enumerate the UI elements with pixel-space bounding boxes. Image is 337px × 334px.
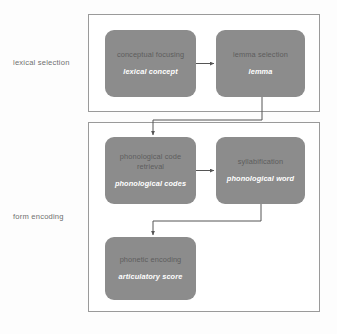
process-box-lemma-selection[interactable]: lemma selection lemma	[216, 30, 305, 97]
process-box-syllabification[interactable]: syllabification phonological word	[216, 137, 305, 204]
process-box-output: phonological codes	[112, 179, 189, 189]
process-box-title: syllabification	[234, 157, 287, 167]
process-box-title: phonological code retrieval	[105, 152, 196, 172]
speech-production-diagram: lexical selection form encoding conceptu…	[0, 0, 337, 334]
process-box-output: lexical concept	[120, 67, 181, 77]
process-box-phonological-code-retrieval[interactable]: phonological code retrieval phonological…	[105, 137, 196, 204]
process-box-output: articulatory score	[116, 272, 186, 282]
process-box-conceptual-focusing[interactable]: conceptual focusing lexical concept	[105, 30, 196, 97]
process-box-title: conceptual focusing	[113, 50, 188, 60]
process-box-output: phonological word	[224, 174, 297, 184]
process-box-phonetic-encoding[interactable]: phonetic encoding articulatory score	[105, 237, 196, 300]
stage-label-lexical-selection: lexical selection	[13, 58, 70, 67]
process-box-output: lemma	[246, 67, 276, 77]
stage-label-form-encoding: form encoding	[13, 212, 64, 221]
process-box-title: phonetic encoding	[116, 255, 186, 265]
process-box-title: lemma selection	[229, 50, 292, 60]
